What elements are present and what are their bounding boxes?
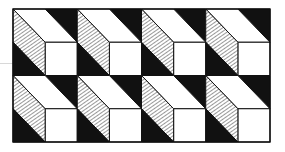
- cube-front-face: [45, 109, 77, 142]
- cube-front-face: [109, 42, 141, 75]
- cube-grid: [0, 0, 285, 152]
- cube-front-face: [238, 109, 270, 142]
- cube-cell: [13, 9, 77, 76]
- cube-cell: [206, 76, 270, 143]
- cube-front-face: [109, 109, 141, 142]
- cube-cell: [77, 76, 141, 143]
- cube-front-face: [174, 42, 206, 75]
- cube-front-face: [174, 109, 206, 142]
- cube-front-face: [45, 42, 77, 75]
- cube-cell: [142, 76, 206, 143]
- cube-cell: [77, 9, 141, 76]
- cube-cell: [142, 9, 206, 76]
- cube-cell: [13, 76, 77, 143]
- cube-cell: [206, 9, 270, 76]
- cube-pattern-figure: [0, 0, 285, 152]
- cube-front-face: [238, 42, 270, 75]
